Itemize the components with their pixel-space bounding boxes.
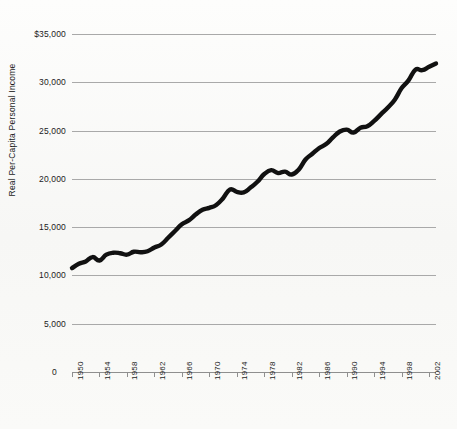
plot-area xyxy=(72,34,436,372)
y-axis-tick-label: 30,000 xyxy=(39,77,66,87)
y-axis-tick-label: $35,000 xyxy=(34,29,66,39)
x-axis-tick xyxy=(99,372,100,377)
x-axis-tick-label: 1962 xyxy=(158,361,167,380)
x-axis-tick xyxy=(374,372,375,377)
x-axis-tick xyxy=(72,372,73,377)
x-axis-tick-label: 1970 xyxy=(213,361,222,380)
x-axis-tick-label: 1982 xyxy=(295,361,304,380)
x-axis-tick-label: 1954 xyxy=(103,361,112,380)
x-axis-tick xyxy=(237,372,238,377)
x-axis-tick-label: 1986 xyxy=(323,361,332,380)
x-axis-tick xyxy=(209,372,210,377)
x-axis-tick-label: 1950 xyxy=(76,361,85,380)
y-axis-tick-label: 5,000 xyxy=(44,319,66,329)
y-axis-tick-label: 15,000 xyxy=(39,222,66,232)
x-axis-tick-label: 1990 xyxy=(350,361,359,380)
data-series-svg xyxy=(72,34,436,372)
x-axis-tick xyxy=(347,372,348,377)
y-axis-zero-label: 0 xyxy=(52,367,57,377)
y-axis-tick-label: 25,000 xyxy=(39,126,66,136)
y-axis-title: Real Per-Capita Personal Income xyxy=(7,30,17,230)
x-axis-tick-label: 1994 xyxy=(378,361,387,380)
y-axis-tick-label: 20,000 xyxy=(39,174,66,184)
x-axis-tick xyxy=(127,372,128,377)
x-axis-tick-label: 1958 xyxy=(130,361,139,380)
x-axis-tick-label: 1974 xyxy=(240,361,249,380)
chart-container: $35,00030,00025,00020,00015,00010,0005,0… xyxy=(0,0,457,429)
x-axis-tick-label: 1998 xyxy=(405,361,414,380)
x-axis-tick xyxy=(182,372,183,377)
y-axis-tick-label: 10,000 xyxy=(39,270,66,280)
x-axis-tick-label: 2002 xyxy=(433,361,442,380)
x-axis-tick xyxy=(264,372,265,377)
x-axis-tick xyxy=(319,372,320,377)
x-axis-tick-label: 1978 xyxy=(268,361,277,380)
x-axis-tick xyxy=(292,372,293,377)
x-axis-tick-label: 1966 xyxy=(185,361,194,380)
line-series-real-per-capita-personal-income xyxy=(72,63,436,268)
x-axis-tick xyxy=(429,372,430,377)
x-axis-tick xyxy=(154,372,155,377)
x-axis-tick xyxy=(402,372,403,377)
